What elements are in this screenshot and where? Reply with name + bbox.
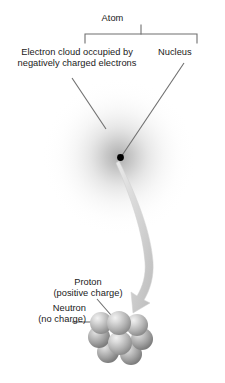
nucleon-sphere-proton: [107, 311, 131, 335]
atom-diagram-figure: Atom Electron cloud occupied by negative…: [0, 0, 225, 383]
nucleon-cluster: [88, 311, 153, 365]
label-nucleus: Nucleus: [158, 47, 220, 58]
label-neutron: Neutron (no charge): [2, 303, 86, 325]
nucleus-dot: [117, 154, 124, 161]
atom-bracket: [85, 25, 197, 43]
label-proton: Proton (positive charge): [38, 277, 138, 299]
label-atom: Atom: [0, 13, 225, 24]
label-electron-cloud: Electron cloud occupied by negatively ch…: [2, 47, 152, 69]
